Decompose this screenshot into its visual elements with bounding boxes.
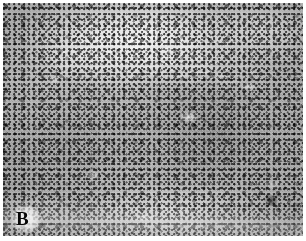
- fine-nuclei-layer: [3, 3, 303, 236]
- figure-panel: B: [0, 0, 306, 241]
- tissue-base-layer: [3, 3, 303, 236]
- dark-focus-region: [265, 195, 278, 206]
- vignette-layer: [3, 3, 303, 236]
- pale-clearings-layer: [3, 3, 303, 236]
- tissue-grain-layer: [3, 3, 303, 236]
- stromal-band-region: [3, 3, 303, 236]
- tissue-grain-layer-fine: [3, 3, 303, 236]
- lower-pale-band-region: [3, 3, 303, 236]
- panel-label: B: [16, 209, 29, 229]
- coarse-nuclei-layer: [3, 3, 303, 236]
- histopathology-micrograph: B: [3, 3, 303, 236]
- fine-nuclei-layer-alt: [3, 3, 303, 236]
